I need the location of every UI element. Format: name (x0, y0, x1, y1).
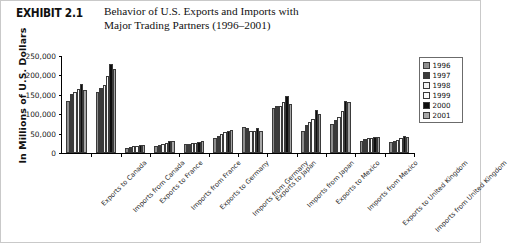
legend-label: 2000 (433, 101, 451, 110)
y-axis-tick-mark (59, 134, 62, 135)
y-axis-tick-mark (59, 75, 62, 76)
x-axis-tick-label: Imports from United Kingdom (433, 159, 508, 234)
y-axis-tick-label: 200,000 (12, 71, 56, 80)
exhibit-header: EXHIBIT 2.1 Behavior of U.S. Exports and… (0, 0, 481, 42)
legend-label: 1998 (433, 81, 451, 90)
y-axis-tick-mark (59, 153, 62, 154)
bar (142, 145, 145, 153)
legend-swatch-icon (423, 82, 430, 89)
bar (347, 102, 350, 153)
x-axis-tick-mark (414, 153, 415, 157)
bar (201, 141, 204, 153)
legend-label: 1996 (433, 61, 451, 70)
legend-swatch-icon (423, 62, 430, 69)
legend-swatch-icon (423, 112, 430, 119)
y-axis-tick-mark (59, 56, 62, 57)
exhibit-caption: Behavior of U.S. Exports and Imports wit… (104, 5, 444, 32)
bar-group (297, 56, 326, 153)
legend-label: 1999 (433, 91, 451, 100)
y-axis-tick-mark (59, 95, 62, 96)
bar-group (179, 56, 208, 153)
chart-legend: 199619971998199920002001 (419, 57, 463, 123)
bar (171, 141, 174, 153)
bar-group (238, 56, 267, 153)
exhibit-caption-line-2: Major Trading Partners (1996–2001) (104, 19, 444, 33)
y-axis-tick-label: 0 (12, 149, 56, 158)
y-axis-tick-label: 50,000 (12, 129, 56, 138)
legend-label: 1997 (433, 71, 451, 80)
bar (377, 137, 380, 153)
bar (289, 104, 292, 153)
bar-group (150, 56, 179, 153)
exhibit-caption-line-1: Behavior of U.S. Exports and Imports wit… (104, 5, 444, 19)
y-axis-tick-labels: 250,000200,000150,000100,00050,0000 (12, 40, 56, 243)
legend-item[interactable]: 1996 (423, 60, 460, 70)
legend-swatch-icon (423, 102, 430, 109)
bar (406, 137, 409, 153)
bar-group (267, 56, 296, 153)
legend-item[interactable]: 2001 (423, 110, 460, 120)
legend-item[interactable]: 2000 (423, 100, 460, 110)
bar-group (355, 56, 384, 153)
y-axis-tick-label: 250,000 (12, 52, 56, 61)
plot-area (61, 56, 414, 154)
bar-group (91, 56, 120, 153)
exhibit-number: EXHIBIT 2.1 (16, 6, 83, 20)
bar (113, 69, 116, 153)
bar (83, 90, 86, 153)
legend-item[interactable]: 1999 (423, 90, 460, 100)
bar-group (121, 56, 150, 153)
legend-item[interactable]: 1998 (423, 80, 460, 90)
bar (230, 130, 233, 153)
bar-group (326, 56, 355, 153)
bar (259, 131, 262, 153)
bar (318, 114, 321, 153)
plot-inner (62, 56, 414, 153)
legend-label: 2001 (433, 111, 451, 120)
bar-group (209, 56, 238, 153)
bar-chart: In Millions of U.S. Dollars 250,000200,0… (0, 40, 481, 243)
legend-item[interactable]: 1997 (423, 70, 460, 80)
y-axis-tick-mark (59, 114, 62, 115)
legend-swatch-icon (423, 72, 430, 79)
legend-swatch-icon (423, 92, 430, 99)
bar-group (62, 56, 91, 153)
y-axis-tick-label: 150,000 (12, 90, 56, 99)
y-axis-tick-label: 100,000 (12, 110, 56, 119)
bar-group (385, 56, 414, 153)
x-axis-tick-labels: Exports to CanadaImports from CanadaExpo… (61, 156, 413, 243)
